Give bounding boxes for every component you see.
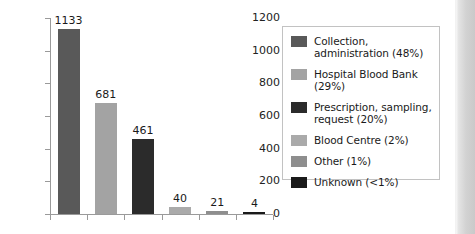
bar (243, 212, 265, 214)
legend-color-swatch (291, 69, 307, 80)
chart-legend: Collection, administration (48%)Hospital… (282, 26, 440, 180)
legend-item-label: Hospital Blood Bank (29%) (314, 68, 432, 92)
x-axis-tick (162, 215, 163, 220)
bar-slot: 1133 (58, 18, 80, 214)
bar-value-label: 681 (83, 89, 129, 101)
bar-slot: 4 (243, 18, 265, 214)
legend-item-label: Prescription, sampling, request (20%) (314, 101, 432, 125)
legend-item: Prescription, sampling, request (20%) (291, 101, 432, 125)
legend-color-swatch (291, 177, 307, 188)
legend-color-swatch (291, 135, 307, 146)
legend-color-swatch (291, 102, 307, 113)
legend-item: Collection, administration (48%) (291, 35, 432, 59)
bar-value-label: 4 (231, 198, 277, 210)
bar-value-label: 1133 (46, 15, 92, 27)
bar-slot: 21 (206, 18, 228, 214)
x-axis-tick (236, 215, 237, 220)
bar (95, 103, 117, 214)
legend-item-label: Other (1%) (314, 155, 371, 167)
bar-slot: 461 (132, 18, 154, 214)
x-axis-tick (50, 215, 51, 220)
legend-item: Hospital Blood Bank (29%) (291, 68, 432, 92)
bar (206, 211, 228, 214)
bar (132, 139, 154, 214)
legend-item-label: Collection, administration (48%) (314, 35, 432, 59)
bar (169, 207, 191, 214)
bar-slot: 40 (169, 18, 191, 214)
legend-item: Blood Centre (2%) (291, 134, 432, 146)
chart-screenshot: 120010008006004002000 113368146140214 Co… (0, 0, 475, 234)
legend-item-label: Blood Centre (2%) (314, 134, 409, 146)
page-edge-line (455, 0, 456, 234)
legend-color-swatch (291, 156, 307, 167)
x-axis-tick (199, 215, 200, 220)
legend-item: Other (1%) (291, 155, 432, 167)
bar-value-label: 461 (120, 125, 166, 137)
legend-item-label: Unknown (<1%) (314, 176, 398, 188)
x-axis-tick (124, 215, 125, 220)
page-edge-strip (455, 0, 475, 234)
legend-item: Unknown (<1%) (291, 176, 432, 188)
x-axis-tick (273, 215, 274, 220)
legend-color-swatch (291, 36, 307, 47)
bar-series: 113368146140214 (50, 18, 273, 214)
bar-chart-plot-area: 120010008006004002000 113368146140214 (0, 0, 280, 234)
legend-items: Collection, administration (48%)Hospital… (291, 35, 432, 188)
bar (58, 29, 80, 214)
bar-slot: 681 (95, 18, 117, 214)
x-axis-tick (87, 215, 88, 220)
